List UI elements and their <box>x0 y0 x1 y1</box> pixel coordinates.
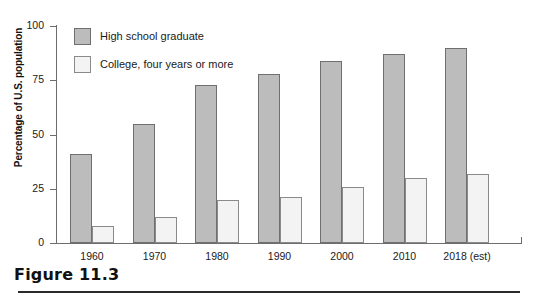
bar <box>92 226 114 243</box>
x-axis-tick-label: 2018 (est) <box>427 250 507 262</box>
y-axis-tick-label: 25 <box>12 182 44 194</box>
figure-caption: Figure 11.3 <box>14 265 119 284</box>
legend-item-high-school: High school graduate <box>74 25 233 47</box>
y-axis-tick-label: 75 <box>12 73 44 85</box>
bar <box>467 174 489 243</box>
bar <box>155 217 177 243</box>
legend-label-high-school: High school graduate <box>100 30 204 42</box>
x-axis-endcap <box>521 237 522 244</box>
y-axis-tick-label: 0 <box>12 236 44 248</box>
bar-group <box>258 26 302 243</box>
bar-group <box>320 26 364 243</box>
bar <box>320 61 342 243</box>
y-axis-title: Percentage of U.S. population <box>13 8 24 188</box>
bar <box>217 200 239 243</box>
legend-swatch-high-school-icon <box>74 28 91 45</box>
legend-swatch-college-icon <box>74 56 91 73</box>
bar <box>258 74 280 243</box>
figure-container: Percentage of U.S. population 0255075100… <box>0 0 535 301</box>
bar <box>342 187 364 243</box>
legend-item-college: College, four years or more <box>74 53 233 75</box>
bar <box>70 154 92 243</box>
bar <box>133 124 155 243</box>
bar <box>280 197 302 243</box>
y-axis-tick <box>50 135 57 136</box>
legend-label-college: College, four years or more <box>100 58 233 70</box>
bar <box>383 54 405 243</box>
bar-group <box>383 26 427 243</box>
y-axis-tick <box>50 80 57 81</box>
y-axis-tick-label: 100 <box>12 19 44 31</box>
bar <box>445 48 467 243</box>
x-axis-line <box>56 243 522 244</box>
bar-group <box>445 26 489 243</box>
y-axis-tick <box>50 189 57 190</box>
bar <box>405 178 427 243</box>
bar <box>195 85 217 243</box>
chart-legend: High school graduate College, four years… <box>74 25 233 81</box>
y-axis-tick <box>50 26 57 27</box>
caption-divider <box>18 291 520 293</box>
y-axis-tick <box>50 243 57 244</box>
y-axis-tick-label: 50 <box>12 128 44 140</box>
